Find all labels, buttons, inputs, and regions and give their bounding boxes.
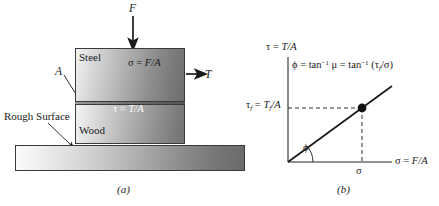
sigma-equals: = <box>136 57 142 68</box>
sigma-expression: F/A <box>145 57 161 68</box>
y-axis-symbol: τ <box>266 41 270 52</box>
caption-panel-b: (b) <box>337 184 350 195</box>
rough-surface-slab <box>15 145 245 171</box>
x-axis-equals: = <box>403 155 409 166</box>
x-axis-symbol: σ <box>395 155 401 166</box>
shear-force-label: T <box>205 69 211 81</box>
steel-label: Steel <box>79 52 101 63</box>
x-axis-tick-label: σ <box>356 166 362 177</box>
y-axis-label: τ = T/A <box>266 42 297 53</box>
phi-angle-label: ϕ <box>303 143 309 154</box>
wood-label: Wood <box>79 125 105 136</box>
area-label: A <box>55 66 62 78</box>
phi-eq2: = tan <box>340 59 361 70</box>
mu-symbol: μ <box>332 59 338 70</box>
normal-force-label: F <box>129 3 136 15</box>
figure-canvas <box>0 0 439 206</box>
tau-f-subscript: f <box>250 104 252 112</box>
tau-symbol: τ <box>113 103 117 114</box>
rough-surface-label: Rough Surface <box>4 111 70 122</box>
y-axis-tick-label: τf = Tf/A <box>246 100 281 112</box>
tau-f-expr-tail: /A <box>271 99 280 110</box>
y-axis-expression: T/A <box>281 41 296 52</box>
failure-point-marker <box>358 104 367 113</box>
tau-expression: T/A <box>128 103 143 114</box>
caption-panel-a: (a) <box>117 184 130 195</box>
phi-exp2: −1 <box>361 59 368 66</box>
x-axis-label: σ = F/A <box>395 156 428 167</box>
y-axis-equals: = <box>273 41 279 52</box>
phi-eq1: = tan <box>300 59 321 70</box>
tau-equals: = <box>120 103 126 114</box>
phi-formula-annotation: ϕ = tan−1 μ = tan−1 (τf/σ) <box>292 60 393 72</box>
normal-stress-label: σ = F/A <box>128 58 161 69</box>
phi-symbol: ϕ <box>292 59 298 70</box>
x-axis-expression: F/A <box>412 155 428 166</box>
phi-exp1: −1 <box>322 59 329 66</box>
rough-surface-leader-line <box>48 123 72 146</box>
arg-close: ) <box>389 59 393 70</box>
tau-f-equals: = <box>255 99 261 110</box>
sigma-symbol: σ <box>128 57 134 68</box>
shear-stress-label: τ = T/A <box>113 104 144 115</box>
